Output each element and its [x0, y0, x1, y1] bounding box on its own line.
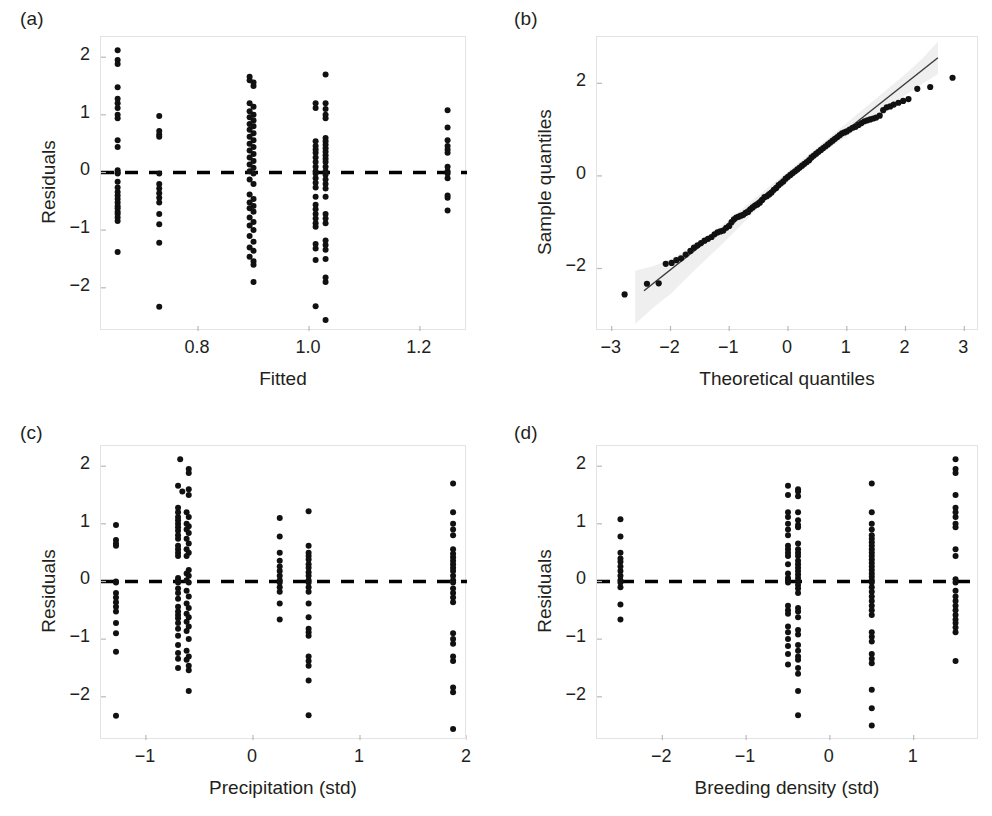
x-tick-label: 1 — [816, 337, 876, 358]
x-tick-label: −2 — [639, 337, 699, 358]
x-tick-label: 3 — [933, 337, 992, 358]
scatter-plot-a — [101, 37, 467, 331]
y-tick-label: 0 — [52, 159, 90, 180]
x-tick-label: 1 — [883, 746, 943, 767]
y-tick-label: 1 — [52, 102, 90, 123]
y-tick-label: 0 — [548, 163, 586, 184]
x-tick-label: −3 — [581, 337, 641, 358]
plot-frame-c — [100, 445, 466, 739]
y-tick-label: −1 — [548, 626, 586, 647]
x-tick-label: −1 — [115, 746, 175, 767]
figure-canvas: (a) Residuals Fitted 0.81.01.2 −2−1012 (… — [0, 0, 992, 816]
qq-plot-b — [597, 37, 979, 331]
plot-frame-d — [596, 445, 978, 739]
y-tick-label: −1 — [52, 217, 90, 238]
x-tick-label: −1 — [715, 746, 775, 767]
y-tick-label: 1 — [52, 511, 90, 532]
y-tick-label: −2 — [548, 684, 586, 705]
y-tick-label: 2 — [548, 453, 586, 474]
x-axis-title-a: Fitted — [100, 368, 466, 390]
x-tick-label: 0 — [757, 337, 817, 358]
x-axis-title-c: Precipitation (std) — [100, 777, 466, 799]
y-tick-label: −2 — [52, 684, 90, 705]
y-tick-label: 2 — [52, 44, 90, 65]
x-tick-label: 2 — [875, 337, 935, 358]
panel-label-d: (d) — [514, 422, 538, 444]
y-tick-label: −1 — [52, 626, 90, 647]
y-tick-label: −2 — [52, 275, 90, 296]
x-tick-label: 1.0 — [278, 337, 338, 358]
plot-frame-b — [596, 36, 978, 330]
panel-label-c: (c) — [20, 422, 43, 444]
x-axis-title-b: Theoretical quantiles — [596, 368, 978, 390]
scatter-plot-c — [101, 446, 467, 740]
x-tick-label: 1.2 — [389, 337, 449, 358]
panel-label-b: (b) — [514, 8, 538, 30]
y-tick-label: 0 — [548, 568, 586, 589]
y-tick-label: 1 — [548, 511, 586, 532]
y-tick-label: 2 — [548, 70, 586, 91]
y-tick-label: −2 — [548, 255, 586, 276]
plot-frame-a — [100, 36, 466, 330]
scatter-plot-d — [597, 446, 979, 740]
panel-label-a: (a) — [20, 8, 44, 30]
x-tick-label: 0 — [222, 746, 282, 767]
x-tick-label: −2 — [631, 746, 691, 767]
x-tick-label: 2 — [436, 746, 496, 767]
x-tick-label: 0.8 — [167, 337, 227, 358]
y-tick-label: 2 — [52, 453, 90, 474]
x-tick-label: 0 — [799, 746, 859, 767]
x-tick-label: −1 — [698, 337, 758, 358]
x-axis-title-d: Breeding density (std) — [596, 777, 978, 799]
x-tick-label: 1 — [329, 746, 389, 767]
y-tick-label: 0 — [52, 568, 90, 589]
